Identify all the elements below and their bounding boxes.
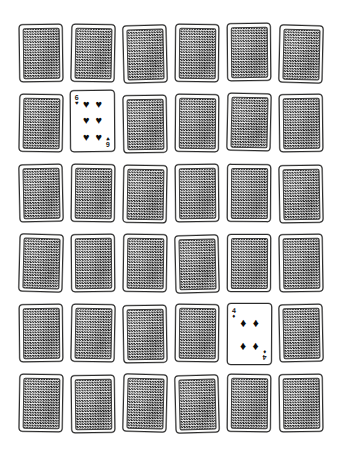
card-back-pattern xyxy=(126,308,164,360)
card-back-grain xyxy=(127,238,163,287)
card-back-pattern xyxy=(178,307,216,358)
card-face-down[interactable] xyxy=(227,23,272,81)
card-back-pattern xyxy=(178,378,216,430)
card-face-down[interactable] xyxy=(278,25,323,84)
card-face-down[interactable] xyxy=(175,94,220,152)
card-face-down[interactable] xyxy=(175,24,220,82)
card-face-down[interactable] xyxy=(71,234,116,292)
card-face-down[interactable] xyxy=(19,304,64,362)
card-face-up-4-of-diamonds[interactable]: 4♦4♦♦♦♦♦ xyxy=(227,303,272,365)
card-face-down[interactable] xyxy=(19,374,64,433)
card-face-down[interactable] xyxy=(70,24,115,83)
card-face-down[interactable] xyxy=(19,24,64,83)
card-rank-label: 4 xyxy=(263,354,267,361)
card-back-grain xyxy=(231,238,266,287)
card-face-down[interactable] xyxy=(18,164,63,223)
card-back-sheen xyxy=(283,378,319,427)
card-back-grain xyxy=(283,238,319,288)
card-face-down[interactable] xyxy=(71,375,116,434)
card-back-grain xyxy=(127,309,163,359)
card-back-grain xyxy=(23,28,59,77)
card-face-down[interactable] xyxy=(174,235,219,294)
card-face-down[interactable] xyxy=(122,305,167,364)
card-face-down[interactable] xyxy=(70,304,115,363)
card-back-sheen xyxy=(179,98,214,147)
card-back-pattern xyxy=(22,307,60,358)
card-face-down[interactable] xyxy=(279,234,324,293)
card-face-down[interactable] xyxy=(19,94,64,153)
card-back-pattern xyxy=(282,97,320,148)
card-back-sheen xyxy=(179,28,215,77)
card-face-down[interactable] xyxy=(122,165,167,224)
card-face-down[interactable] xyxy=(279,374,324,433)
hearts-icon: ♥ xyxy=(75,100,79,106)
card-back-pattern xyxy=(74,307,112,359)
card-back-grain xyxy=(23,308,59,357)
card-back-grain xyxy=(75,308,111,358)
card-face-down[interactable] xyxy=(175,164,220,222)
card-face-down[interactable] xyxy=(227,164,271,222)
card-back-grain xyxy=(23,168,59,218)
card-back-sheen xyxy=(231,168,266,217)
card-face-down[interactable] xyxy=(279,94,324,153)
diamonds-pip-icon: ♦ xyxy=(250,311,263,334)
card-face-down[interactable] xyxy=(175,304,220,362)
card-face-up-6-of-hearts[interactable]: 6♥6♥♥♥♥♥♥♥ xyxy=(70,90,115,152)
card-back-pattern xyxy=(282,168,320,220)
card-back-sheen xyxy=(23,238,59,288)
card-back-sheen xyxy=(75,28,111,78)
card-back-sheen xyxy=(283,98,319,147)
card-back-grain xyxy=(127,29,163,79)
card-back-sheen xyxy=(23,378,59,428)
card-back-grain xyxy=(179,168,215,217)
card-back-pattern xyxy=(126,377,164,429)
card-face-down[interactable] xyxy=(278,165,323,224)
card-back-grain xyxy=(231,168,266,217)
card-back-pattern xyxy=(126,237,164,289)
card-face-down[interactable] xyxy=(226,93,271,152)
card-back-grain xyxy=(75,28,111,78)
card-back-sheen xyxy=(127,169,163,219)
card-back-grain xyxy=(283,378,319,427)
card-back-grain xyxy=(23,378,59,428)
card-grid-board: 6♥6♥♥♥♥♥♥♥4♦4♦♦♦♦♦ xyxy=(0,0,341,464)
card-back-pattern xyxy=(178,27,216,78)
hearts-pip-icon: ♥ xyxy=(80,96,93,113)
card-face-down[interactable] xyxy=(71,164,116,223)
card-face-down[interactable] xyxy=(122,24,167,83)
card-face-down[interactable] xyxy=(18,233,63,292)
card-back-sheen xyxy=(23,28,59,77)
card-back-sheen xyxy=(283,308,319,358)
hearts-pip-icon: ♥ xyxy=(92,96,105,113)
card-back-pattern xyxy=(282,28,320,80)
card-face-down[interactable] xyxy=(123,234,168,293)
card-rank-label: 6 xyxy=(107,141,111,148)
card-back-sheen xyxy=(179,168,215,217)
card-back-sheen xyxy=(23,98,59,148)
card-face-down[interactable] xyxy=(122,95,167,154)
card-face: 6♥6♥♥♥♥♥♥♥ xyxy=(73,93,112,149)
card-face-down[interactable] xyxy=(227,234,271,292)
card-back-pattern xyxy=(22,237,60,289)
card-face-down[interactable] xyxy=(174,374,219,433)
card-back-grain xyxy=(231,378,266,427)
diamonds-icon: ♦ xyxy=(264,349,267,355)
card-face-down[interactable] xyxy=(227,374,272,432)
card-back-grain xyxy=(179,98,214,147)
card-corner-index-br: 6♥ xyxy=(107,136,111,148)
card-back-pattern xyxy=(230,237,267,288)
card-back-grain xyxy=(283,169,319,219)
card-face-down[interactable] xyxy=(278,304,323,363)
card-back-sheen xyxy=(283,169,319,219)
card-back-sheen xyxy=(75,379,111,428)
diamonds-pip-icon: ♦ xyxy=(237,334,250,357)
card-back-sheen xyxy=(75,168,111,217)
card-back-sheen xyxy=(283,29,319,79)
card-back-sheen xyxy=(231,238,266,287)
hearts-pip-icon: ♥ xyxy=(92,113,105,130)
card-face-down[interactable] xyxy=(122,374,167,433)
card-back-pattern xyxy=(22,97,60,149)
diamonds-pip-icon: ♦ xyxy=(237,311,250,334)
card-corner-index-tl: 4♦ xyxy=(232,307,236,319)
card-back-grain xyxy=(127,378,163,428)
